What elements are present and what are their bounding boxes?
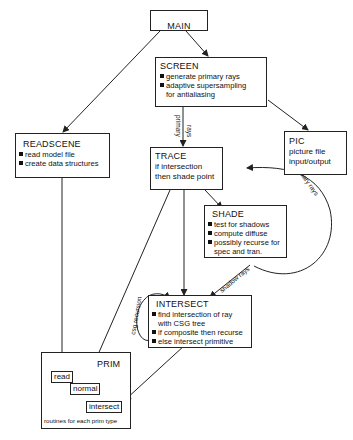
intersect-title: INTERSECT (152, 299, 248, 310)
pic-node: PIC picture file input/output (284, 131, 347, 175)
readscene-title: READSCENE (19, 139, 106, 150)
prim-title: PRIM (97, 359, 120, 370)
primary-rays-label-2: rays (185, 125, 193, 138)
shade-title: SHADE (208, 209, 283, 220)
prim-routine-normal: normal (70, 383, 100, 395)
prim-caption: routines for each prim type (44, 417, 117, 424)
edge-main-screen (186, 31, 208, 56)
shade-item: test for shadows (208, 220, 283, 229)
pic-title: PIC (289, 136, 342, 147)
main-node: MAIN (150, 10, 208, 31)
pic-line: input/output (289, 157, 342, 167)
csg-recursion-label: csg recursion (129, 296, 144, 336)
screen-title: SCREEN (160, 61, 262, 72)
shade-node: SHADE test for shadows compute diffuse p… (204, 205, 287, 258)
screen-item: generate primary rays (160, 72, 262, 81)
intersect-item: with CSG tree (152, 319, 248, 328)
intersect-item: find intersection of ray (152, 310, 248, 319)
primary-rays-label: primary (174, 115, 182, 137)
shade-item: possibly recurse for (208, 238, 283, 247)
trace-line: then shade point (155, 172, 218, 182)
prim-routine-read: read (51, 371, 73, 383)
intersect-node: INTERSECT find intersection of ray with … (148, 295, 252, 348)
edge-screen-pic (268, 100, 308, 130)
readscene-node: READSCENE read model file create data st… (15, 133, 110, 178)
intersect-item: if composite then recurse (152, 328, 248, 337)
main-title: MAIN (167, 21, 190, 31)
trace-title: TRACE (155, 151, 218, 162)
screen-item: adaptive supersampling (160, 81, 262, 90)
edge-intersect-prim (125, 345, 185, 400)
prim-routine-intersect: intersect (86, 401, 122, 413)
readscene-item: read model file (19, 150, 106, 159)
screen-node: SCREEN generate primary rays adaptive su… (155, 57, 267, 107)
shadow-rays-label: shadow rays (218, 264, 252, 294)
screen-item: for antialiasing (160, 90, 262, 99)
readscene-item: create data structures (19, 159, 106, 168)
trace-line: if intersection (155, 162, 218, 172)
shade-item: spec and tran. (208, 247, 283, 256)
pic-line: picture file (289, 147, 342, 157)
intersect-item: else intersect primitive (152, 337, 248, 346)
edge-main-readscene (63, 31, 160, 132)
shade-item: compute diffuse (208, 229, 283, 238)
trace-node: TRACE if intersection then shade point (150, 147, 223, 190)
